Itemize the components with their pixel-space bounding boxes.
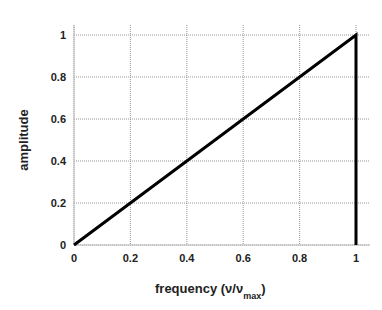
y-tick-label: 0.2 bbox=[51, 197, 66, 209]
x-axis-label: frequency (ν/νmax) bbox=[155, 281, 266, 301]
y-tick-label: 1 bbox=[60, 29, 66, 41]
x-tick-label: 0.8 bbox=[292, 252, 307, 264]
y-tick-label: 0.4 bbox=[51, 155, 67, 167]
x-tick-label: 0.2 bbox=[123, 252, 138, 264]
y-axis-label: amplitude bbox=[16, 109, 31, 170]
y-tick-label: 0.8 bbox=[51, 71, 66, 83]
x-axis-label-main: frequency (ν/ν bbox=[155, 281, 243, 296]
x-axis-label-close: ) bbox=[261, 281, 265, 296]
x-axis-label-sub: max bbox=[243, 291, 261, 301]
x-tick-label: 0.4 bbox=[179, 252, 195, 264]
x-tick-label: 1 bbox=[353, 252, 359, 264]
x-tick-label: 0 bbox=[71, 252, 77, 264]
data-series bbox=[74, 35, 356, 245]
x-tick-label: 0.6 bbox=[236, 252, 251, 264]
y-tick-label: 0 bbox=[60, 239, 66, 251]
series-line bbox=[74, 35, 356, 245]
chart: 00.20.40.60.8100.20.40.60.81 amplitude f… bbox=[0, 0, 382, 310]
y-tick-label: 0.6 bbox=[51, 113, 66, 125]
